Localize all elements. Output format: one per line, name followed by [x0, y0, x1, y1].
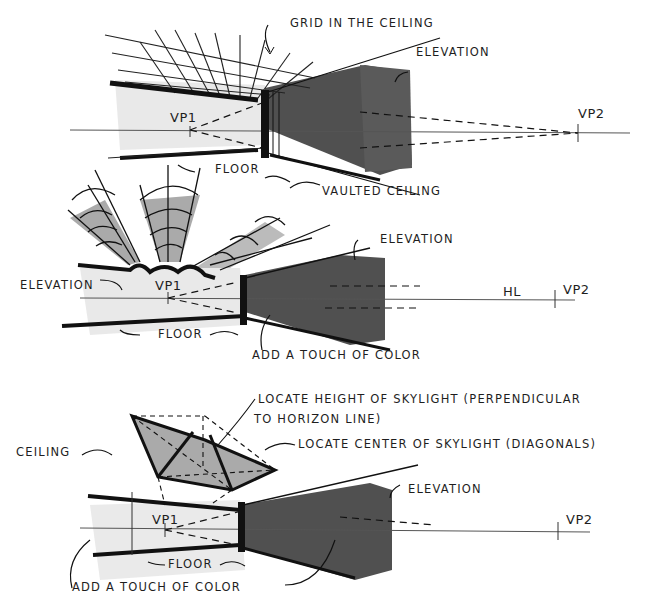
label-vp2: VP2	[578, 106, 605, 121]
label-vp2: VP2	[563, 282, 590, 297]
panel-vaulted-ceiling	[62, 165, 575, 350]
label-add-touch-of-color: Add a touch of color	[72, 580, 241, 594]
label-floor: Floor	[168, 557, 213, 571]
panel-skylight	[70, 399, 590, 588]
label-floor: Floor	[158, 327, 203, 341]
label-add-touch-of-color: Add a touch of color	[252, 348, 421, 362]
panel-grid-ceiling	[70, 25, 630, 195]
label-locate-height-line2: to horizon line)	[254, 412, 381, 426]
label-elevation-left: Elevation	[20, 278, 94, 292]
label-floor: Floor	[215, 162, 260, 176]
label-vaulted-ceiling: Vaulted ceiling	[322, 184, 441, 198]
label-horizon-line: HL	[503, 284, 521, 299]
label-vp1: VP1	[170, 110, 197, 125]
label-elevation: Elevation	[408, 482, 482, 496]
label-ceiling: Ceiling	[16, 445, 70, 459]
label-locate-height-line1: Locate height of skylight (perpendicular	[258, 392, 581, 406]
label-elevation-right: Elevation	[380, 232, 454, 246]
label-locate-center: Locate center of skylight (diagonals)	[298, 437, 596, 451]
perspective-sketch	[0, 0, 651, 604]
label-grid-in-the-ceiling: Grid in the ceiling	[290, 16, 434, 30]
label-elevation: Elevation	[416, 45, 490, 59]
label-vp1: VP1	[152, 512, 179, 527]
label-vp2: VP2	[566, 512, 593, 527]
label-vp1: VP1	[155, 278, 182, 293]
